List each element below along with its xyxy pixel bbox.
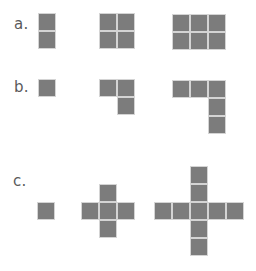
square-tile — [208, 116, 226, 134]
square-tile — [38, 79, 56, 97]
square-tile — [38, 31, 56, 49]
square-tile — [208, 32, 226, 50]
square-tile — [99, 220, 117, 238]
row-label-c: c. — [13, 174, 26, 189]
square-tile — [190, 14, 208, 32]
square-tile — [117, 97, 135, 115]
row-label-a: a. — [14, 17, 28, 32]
square-tile — [117, 31, 135, 49]
square-tile — [99, 202, 117, 220]
square-tile — [208, 98, 226, 116]
square-tile — [190, 166, 208, 184]
square-tile — [172, 32, 190, 50]
square-tile — [190, 238, 208, 256]
square-tile — [208, 202, 226, 220]
square-tile — [172, 202, 190, 220]
square-tile — [190, 220, 208, 238]
square-tile — [172, 80, 190, 98]
square-tile — [99, 79, 117, 97]
square-tile — [190, 80, 208, 98]
square-tile — [208, 14, 226, 32]
square-tile — [190, 32, 208, 50]
square-tile — [37, 202, 55, 220]
square-tile — [226, 202, 244, 220]
square-tile — [99, 184, 117, 202]
square-tile — [208, 80, 226, 98]
square-tile — [190, 184, 208, 202]
square-tile — [117, 13, 135, 31]
square-tile — [99, 31, 117, 49]
square-tile — [117, 202, 135, 220]
square-tile — [172, 14, 190, 32]
row-label-b: b. — [14, 80, 29, 95]
square-tile — [117, 79, 135, 97]
square-tile — [38, 13, 56, 31]
square-tile — [190, 202, 208, 220]
square-tile — [154, 202, 172, 220]
square-tile — [81, 202, 99, 220]
square-tile — [99, 13, 117, 31]
